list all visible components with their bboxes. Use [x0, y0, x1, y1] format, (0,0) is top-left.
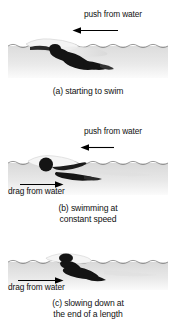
panel-a-scene: [0, 34, 176, 82]
panel-a-water-swimmer: [0, 34, 176, 82]
panel-b: push from water: [0, 110, 176, 222]
panel-c-caption-line1: (c) slowing down at: [52, 298, 124, 308]
panel-c-drag-label-text: drag from water: [8, 282, 65, 292]
panel-b-push-label-text: push from water: [84, 126, 142, 136]
panel-b-drag-label-text: drag from water: [8, 186, 65, 196]
panel-b-caption: (b) swimming at constant speed: [0, 203, 176, 224]
panel-a-push-label-text: push from water: [84, 9, 142, 19]
panel-b-caption-line1: (b) swimming at: [58, 203, 117, 213]
panel-c-caption: (c) slowing down at the end of a length: [0, 298, 176, 319]
panel-b-caption-line2: constant speed: [0, 214, 176, 225]
panel-a-push-label: push from water: [84, 9, 142, 19]
panel-c-caption-line2: the end of a length: [0, 309, 176, 320]
panel-c-drag-label: drag from water: [8, 282, 65, 292]
panel-c: drag from water (c) slowing down at the …: [0, 245, 176, 332]
panel-a-caption: (a) starting to swim: [0, 86, 176, 97]
panel-b-drag-label: drag from water: [8, 186, 65, 196]
panel-b-push-label: push from water: [84, 126, 142, 136]
swimming-forces-figure: push from water: [0, 0, 176, 332]
panel-a-caption-line1: (a) starting to swim: [53, 86, 124, 96]
panel-a: push from water: [0, 0, 176, 110]
